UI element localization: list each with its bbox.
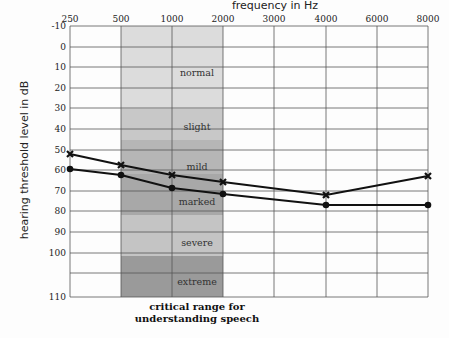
critical-range-caption: critical range for understanding speech (135, 301, 260, 324)
y-tick: 30 (55, 103, 67, 113)
band-label-marked: marked (179, 196, 216, 207)
x-axis-ticks: 250 500 1000 2000 3000 4000 6000 8000 (61, 14, 439, 24)
y-axis-label: hearing threshold level in dB (18, 81, 31, 240)
x-tick: 1000 (161, 14, 184, 24)
y-tick: 20 (55, 83, 67, 93)
y-tick: -10 (52, 21, 67, 31)
dot-marker (169, 185, 176, 192)
y-tick: 70 (55, 186, 67, 196)
caption-line-2: understanding speech (135, 313, 260, 324)
y-tick: 100 (49, 248, 66, 258)
band-label-slight: slight (184, 121, 211, 132)
y-tick: 80 (55, 206, 67, 216)
y-tick: 110 (49, 292, 66, 302)
y-tick: 40 (55, 124, 67, 134)
x-tick: 4000 (315, 14, 338, 24)
x-tick: 500 (112, 14, 129, 24)
dot-marker (220, 191, 227, 198)
audiogram-chart: 250 500 1000 2000 3000 4000 6000 8000 fr… (0, 0, 449, 338)
y-tick: 60 (55, 165, 67, 175)
x-tick: 8000 (417, 14, 440, 24)
x-tick: 3000 (263, 14, 286, 24)
band-label-mild: mild (186, 161, 207, 172)
caption-line-1: critical range for (149, 301, 245, 312)
y-axis-ticks: -10 0 10 20 30 40 50 60 70 80 90 100 110 (49, 21, 66, 302)
x-axis-label: frequency in Hz (232, 0, 318, 12)
y-tick: 50 (55, 145, 67, 155)
band-label-normal: normal (180, 67, 214, 78)
dot-marker (323, 202, 330, 209)
y-tick: 10 (55, 62, 67, 72)
band-label-severe: severe (181, 237, 213, 248)
dot-marker (425, 202, 432, 209)
x-tick: 2000 (212, 14, 235, 24)
x-tick: 6000 (366, 14, 389, 24)
y-tick: 90 (55, 227, 67, 237)
y-tick: 0 (60, 42, 66, 52)
dot-marker (118, 172, 125, 179)
dot-marker (67, 166, 74, 173)
band-label-extreme: extreme (177, 276, 217, 287)
